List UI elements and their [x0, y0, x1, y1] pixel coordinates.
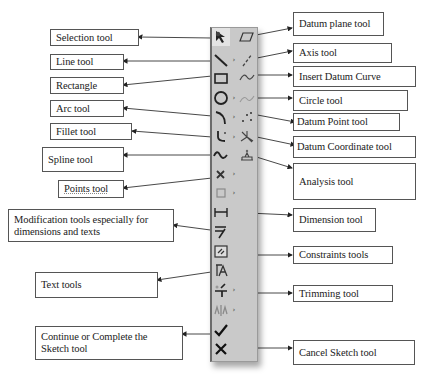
label-spline-tool: Spline tool — [42, 147, 124, 172]
arc-tool-button[interactable] — [213, 109, 229, 125]
trim-icon — [213, 282, 229, 298]
line-tool-button[interactable] — [213, 52, 229, 68]
rectangle-tool-button[interactable] — [213, 70, 229, 86]
datum-curve-tool-button[interactable] — [239, 69, 255, 85]
axis-tool-button[interactable] — [239, 52, 255, 68]
modify-icon — [213, 223, 229, 239]
label-selection-tool: Selection tool — [50, 29, 139, 46]
point-x-icon — [213, 166, 229, 182]
label-modification-tools: Modification tools especially for dimens… — [8, 209, 174, 242]
datum-curve-faded-icon — [239, 90, 255, 106]
arc-icon — [213, 109, 229, 125]
constraints-tool-button[interactable] — [213, 243, 229, 259]
dimension-icon — [213, 204, 229, 220]
label-datum-point-tool: Datum Point tool — [293, 113, 400, 131]
datum-plane-tool-button[interactable] — [239, 29, 255, 45]
datum-point-tool-button[interactable] — [239, 109, 255, 125]
line-flyout-chevron-icon[interactable]: › — [231, 56, 237, 64]
label-circle-tool: Circle tool — [293, 90, 408, 111]
fillet-icon — [213, 129, 229, 145]
offset-square-icon — [213, 185, 229, 201]
datum-curve-faded-tool-button[interactable] — [239, 90, 255, 106]
label-datum-coordinate-tool: Datum Coordinate tool — [293, 136, 416, 158]
datum-point-icon — [239, 109, 255, 125]
trim-tool-button[interactable] — [213, 282, 229, 298]
label-text-tools: Text tools — [35, 272, 158, 298]
done-sketch-button[interactable] — [213, 322, 229, 338]
text-icon — [213, 262, 229, 278]
trim-flyout-chevron-icon[interactable]: › — [231, 286, 237, 294]
points-tool-button[interactable] — [213, 166, 229, 182]
checkmark-icon — [213, 322, 229, 338]
axis-icon — [239, 52, 255, 68]
fillet-tool-button[interactable] — [213, 129, 229, 145]
analysis-icon — [239, 147, 255, 163]
datum-coordinate-tool-button[interactable] — [239, 129, 255, 145]
label-cancel-sketch-tool: Cancel Sketch tool — [293, 340, 415, 365]
arrow-pointer-icon — [213, 29, 229, 45]
text-tool-button[interactable] — [213, 262, 229, 278]
label-rectangle: Rectangle — [50, 77, 124, 94]
offset-flyout-chevron-icon[interactable]: › — [231, 189, 237, 197]
mirror-tool-button[interactable] — [213, 302, 229, 318]
mirror-icon — [213, 302, 229, 318]
label-trimming-tool: Trimming tool — [293, 285, 393, 302]
offset-tool-button[interactable] — [213, 185, 229, 201]
constraints-icon — [213, 243, 229, 259]
x-cancel-icon — [213, 341, 229, 357]
label-arc-tool: Arc tool — [50, 100, 124, 117]
analysis-tool-button[interactable] — [239, 147, 255, 163]
spline-icon — [213, 147, 229, 163]
circle-flyout-chevron-icon[interactable]: › — [231, 94, 237, 102]
label-datum-plane-tool: Datum plane tool — [293, 12, 384, 36]
datum-curve-icon — [239, 69, 255, 85]
label-points-tool: Points tool — [58, 180, 124, 198]
spline-tool-button[interactable] — [213, 147, 229, 163]
label-dimension-tool: Dimension tool — [293, 208, 376, 232]
dimension-tool-button[interactable] — [213, 204, 229, 220]
label-insert-datum-curve: Insert Datum Curve — [293, 66, 416, 87]
points-flyout-chevron-icon[interactable]: › — [231, 170, 237, 178]
label-axis-tool: Axis tool — [293, 43, 392, 63]
label-constraints-tools: Constraints tools — [293, 246, 393, 264]
rectangle-icon — [213, 70, 229, 86]
label-line-tool: Line tool — [50, 54, 124, 70]
circle-icon — [213, 90, 229, 106]
fillet-flyout-chevron-icon[interactable]: › — [231, 133, 237, 141]
mirror-flyout-chevron-icon[interactable]: › — [231, 306, 237, 314]
line-icon — [213, 52, 229, 68]
label-continue-complete-sketch: Continue or Complete the Sketch tool — [35, 326, 183, 360]
label-analysis-tool: Analysis tool — [293, 163, 416, 200]
datum-plane-icon — [239, 29, 255, 45]
datum-coordinate-icon — [239, 129, 255, 145]
selection-tool-button[interactable] — [213, 29, 229, 45]
label-fillet-tool: Fillet tool — [50, 123, 132, 140]
modify-tool-button[interactable] — [213, 223, 229, 239]
cancel-sketch-button[interactable] — [213, 341, 229, 357]
arc-flyout-chevron-icon[interactable]: › — [231, 113, 237, 121]
circle-tool-button[interactable] — [213, 90, 229, 106]
